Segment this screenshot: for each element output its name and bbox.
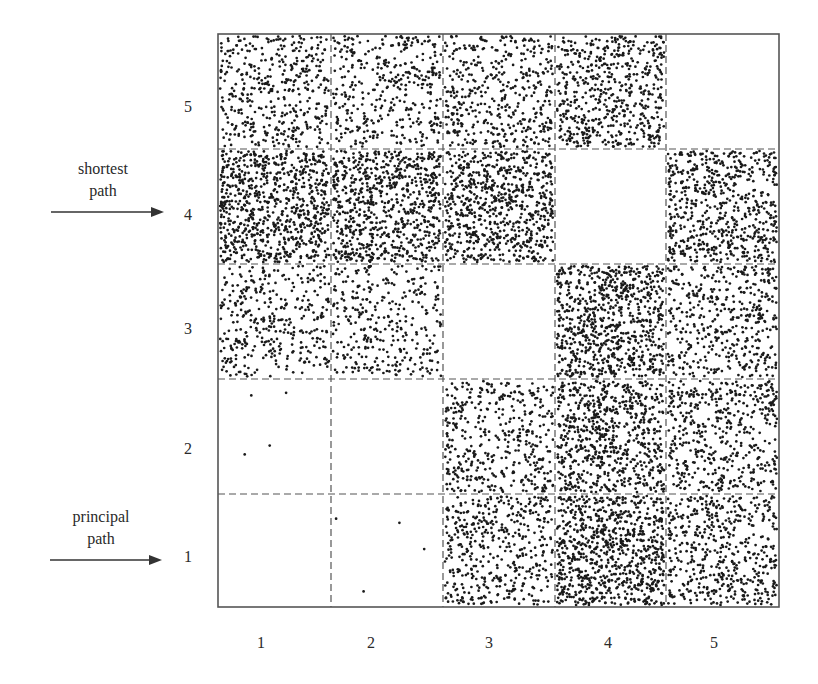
- col-label-3: 3: [485, 635, 493, 651]
- row-label-5: 5: [184, 99, 192, 115]
- row-label-4: 4: [184, 207, 192, 223]
- dashed-grid-lines: [218, 34, 779, 607]
- col-label-1: 1: [257, 635, 265, 651]
- shortest-path-label-line2: path: [58, 182, 148, 200]
- shortest-path-label-line1: shortest: [58, 160, 148, 178]
- col-label-5: 5: [710, 635, 718, 651]
- col-label-4: 4: [604, 635, 612, 651]
- scatter-dots: [219, 35, 779, 607]
- principal-path-label-line2: path: [56, 530, 146, 548]
- principal-path-arrow-icon: [50, 555, 162, 565]
- shortest-path-arrow-icon: [51, 207, 164, 217]
- dot-density-matrix-chart: [0, 0, 818, 684]
- plot-frame: [218, 34, 779, 607]
- col-label-2: 2: [367, 635, 375, 651]
- principal-path-label-line1: principal: [56, 508, 146, 526]
- shortest-path-annotation: shortest path: [58, 160, 148, 200]
- row-label-2: 2: [184, 441, 192, 457]
- row-label-3: 3: [184, 321, 192, 337]
- row-label-1: 1: [184, 549, 192, 565]
- principal-path-annotation: principal path: [56, 508, 146, 548]
